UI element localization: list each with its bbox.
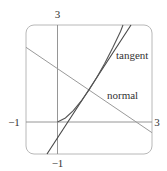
x-min-tick-label: −1 xyxy=(8,116,20,128)
tangent-label: tangent xyxy=(116,49,148,61)
normal-label: normal xyxy=(107,89,138,101)
y-min-tick-label: −1 xyxy=(52,157,64,169)
curve-line xyxy=(58,25,124,122)
y-max-tick-label: 3 xyxy=(55,8,61,20)
x-max-tick-label: 3 xyxy=(154,116,160,128)
tangent-normal-plot: 3 −1 −1 3 tangent normal xyxy=(0,0,167,171)
